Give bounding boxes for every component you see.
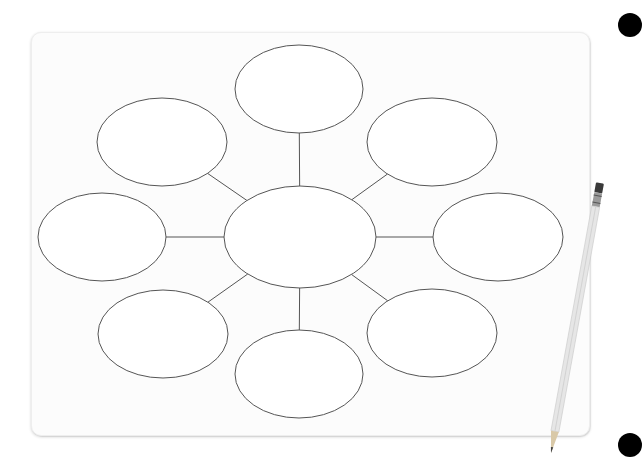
- bubble-top: [235, 45, 363, 133]
- bubble-left: [38, 193, 166, 281]
- connector-top-right: [352, 174, 388, 200]
- bubbles: [38, 45, 563, 418]
- bubble-center: [224, 186, 376, 288]
- bubble-bottom: [235, 330, 363, 418]
- binder-hole-bottom: [618, 433, 642, 457]
- binder-hole-top: [618, 13, 642, 37]
- connector-bottom-right: [352, 274, 388, 300]
- connector-bottom-left: [208, 274, 248, 302]
- bubble-bottom-left: [98, 290, 228, 378]
- bubble-bottom-right: [367, 289, 497, 377]
- bubble-top-right: [367, 98, 497, 186]
- connector-top-left: [208, 173, 247, 200]
- bubble-top-left: [97, 98, 227, 186]
- bubble-right: [433, 193, 563, 281]
